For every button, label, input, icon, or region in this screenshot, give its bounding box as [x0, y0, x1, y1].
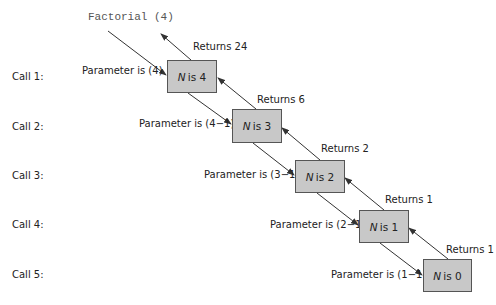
call-label-4: Call 4:	[12, 220, 44, 230]
call-box-4: N is 1	[359, 210, 409, 243]
return-label-2: Returns 6	[257, 95, 305, 105]
return-label-5: Returns 1	[446, 245, 494, 255]
call-box-3: N is 2	[295, 160, 345, 193]
param-label-3: Parameter is (3−1)	[204, 170, 299, 180]
param-label-2: Parameter is (4−1)	[139, 119, 234, 129]
function-call-title: Factorial (4)	[88, 12, 174, 23]
param-label-5: Parameter is (1−1)	[331, 270, 426, 280]
return-label-4: Returns 1	[385, 195, 433, 205]
box-value: is 2	[316, 171, 334, 183]
variable-name: N	[433, 270, 441, 282]
box-value: is 4	[188, 71, 206, 83]
return-arrow-2	[218, 78, 256, 109]
return-arrow-5	[409, 228, 448, 259]
return-label-1: Returns 24	[193, 42, 247, 52]
variable-name: N	[243, 120, 251, 132]
call-box-5: N is 0	[423, 259, 472, 292]
param-label-4: Parameter is (2−1)	[270, 220, 365, 230]
call-label-5: Call 5:	[12, 270, 44, 280]
box-value: is 3	[253, 120, 271, 132]
call-label-3: Call 3:	[12, 171, 44, 181]
recursion-diagram: Factorial (4) Call 1: Call 2: Call 3: Ca…	[0, 0, 496, 305]
return-arrow-3	[282, 128, 320, 160]
variable-name: N	[370, 221, 378, 233]
call-label-2: Call 2:	[12, 122, 44, 132]
param-label-1: Parameter is (4)	[82, 66, 163, 76]
variable-name: N	[178, 71, 186, 83]
call-box-2: N is 3	[232, 109, 282, 143]
return-arrow-1	[161, 34, 191, 60]
return-arrow-4	[345, 178, 384, 210]
call-label-1: Call 1:	[12, 72, 44, 82]
box-value: is 0	[443, 270, 461, 282]
box-value: is 1	[380, 221, 398, 233]
arrow-layer	[0, 0, 496, 305]
call-box-1: N is 4	[167, 60, 217, 93]
return-label-3: Returns 2	[321, 144, 369, 154]
variable-name: N	[306, 171, 314, 183]
